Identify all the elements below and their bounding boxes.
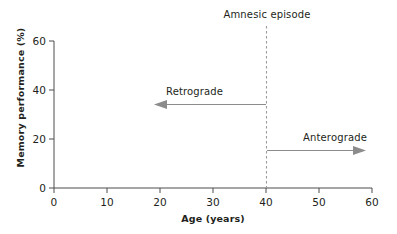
memory-performance-chart: 60 40 20 0 0 10 20 30 40 50 60 Age (year…	[0, 0, 397, 234]
anterograde-label: Anterograde	[303, 133, 367, 143]
x-tick-label-0: 0	[44, 197, 64, 208]
y-tick-label-60: 60	[30, 36, 46, 47]
y-axis-title: Memory performance (%)	[15, 23, 26, 173]
x-tick-label-30: 30	[203, 197, 223, 208]
x-axis-ticks	[54, 188, 372, 193]
y-axis-title-wrapper: Memory performance (%)	[0, 0, 22, 200]
retrograde-label: Retrograde	[166, 87, 223, 97]
y-tick-label-0: 0	[30, 183, 46, 194]
x-tick-label-40: 40	[256, 197, 276, 208]
amnesic-episode-label: Amnesic episode	[197, 10, 337, 20]
x-tick-label-50: 50	[309, 197, 329, 208]
anterograde-arrow	[267, 146, 366, 155]
retrograde-arrow-head	[154, 100, 167, 109]
y-tick-label-20: 20	[30, 134, 46, 145]
y-axis-ticks	[49, 41, 54, 188]
anterograde-arrow-head	[353, 146, 366, 155]
y-tick-label-40: 40	[30, 85, 46, 96]
x-tick-label-10: 10	[97, 197, 117, 208]
x-tick-label-20: 20	[150, 197, 170, 208]
x-axis-title: Age (years)	[54, 214, 372, 224]
retrograde-arrow	[154, 100, 266, 109]
x-tick-label-60: 60	[362, 197, 382, 208]
